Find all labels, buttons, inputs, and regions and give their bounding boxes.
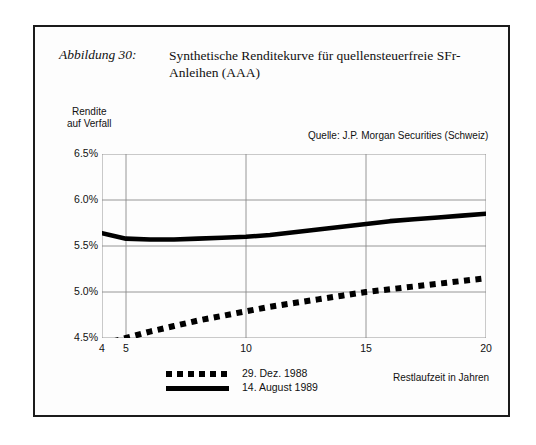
y-axis-title: Renditeauf Verfall [67, 106, 111, 129]
x-axis-tick-labels: 45101520 [102, 342, 486, 358]
series-line [102, 278, 486, 338]
x-axis-tick-label: 15 [360, 342, 372, 354]
x-axis-tick-label: 20 [480, 342, 492, 354]
y-axis-title-line-1: Rendite [67, 106, 111, 118]
x-axis-tick-label: 10 [240, 342, 252, 354]
chart-canvas [102, 154, 486, 338]
figure-number-label: Abbildung 30: [59, 47, 137, 63]
y-axis-tick-labels: 4.5%5.0%5.5%6.0%6.5% [59, 154, 98, 338]
figure-title: Synthetische Renditekurve für quellenste… [169, 47, 489, 81]
x-axis-tick-label: 4 [99, 342, 105, 354]
plot-area [102, 154, 486, 338]
legend-label: 29. Dez. 1988 [242, 367, 307, 379]
legend-label: 14. August 1989 [242, 381, 318, 393]
y-axis-tick-label: 4.5% [74, 331, 98, 343]
source-note: Quelle: J.P. Morgan Securities (Schweiz) [308, 130, 488, 141]
y-axis-tick-label: 6.0% [74, 193, 98, 205]
series-line [102, 214, 486, 240]
y-axis-tick-label: 5.0% [74, 285, 98, 297]
y-axis-tick-label: 5.5% [74, 239, 98, 251]
legend-swatch [166, 386, 229, 391]
figure-title-line-2: Anleihen (AAA) [169, 64, 489, 81]
legend-swatch [166, 371, 229, 377]
figure-title-line-1: Synthetische Renditekurve für quellenste… [169, 48, 460, 63]
x-axis-tick-label: 5 [123, 342, 129, 354]
x-axis-title: Restlaufzeit in Jahren [393, 372, 489, 383]
y-axis-title-line-2: auf Verfall [67, 118, 111, 130]
figure-frame: Abbildung 30: Synthetische Renditekurve … [33, 25, 510, 417]
y-axis-tick-label: 6.5% [74, 147, 98, 159]
